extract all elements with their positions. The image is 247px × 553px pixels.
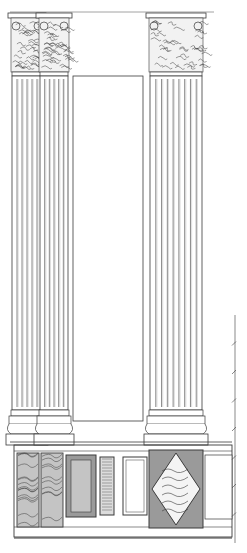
left-inner-column-base-scotia <box>35 424 72 434</box>
left-inner-column-base-torus <box>37 416 71 424</box>
marble-panel-3-inner <box>71 460 91 512</box>
architectural-drawing <box>0 0 247 553</box>
right-column-capital <box>149 18 203 72</box>
scale-tick <box>232 513 236 517</box>
right-column-base-fillet <box>149 410 203 416</box>
left-inner-column-abacus <box>36 13 72 18</box>
right-column-abacus <box>146 13 206 18</box>
marble-panel-7 <box>205 455 232 519</box>
scale-tick <box>232 484 236 488</box>
scale-tick <box>232 427 236 431</box>
right-column-base-scotia <box>145 424 206 434</box>
elevation-svg <box>0 0 247 553</box>
right-column-base-torus <box>147 416 205 424</box>
scale-tick <box>232 456 236 460</box>
left-inner-column-plinth <box>34 434 74 445</box>
left-inner-column-capital <box>39 18 69 72</box>
left-outer-column-astragal <box>12 72 42 76</box>
marble-panel-2 <box>41 453 63 527</box>
scale-tick <box>232 370 236 374</box>
right-column-shaft <box>150 76 202 410</box>
left-inner-column-base-fillet <box>39 410 69 416</box>
left-inner-column-acanthus-leaf <box>68 59 78 62</box>
right-column-plinth <box>144 434 208 445</box>
left-inner-column-astragal <box>40 72 68 76</box>
marble-panel-5-inner <box>126 460 144 512</box>
right-column-astragal <box>150 72 202 76</box>
left-outer-column-base-fillet <box>11 410 43 416</box>
scale-tick <box>232 342 236 346</box>
center-panel <box>73 76 143 421</box>
scale-tick <box>232 399 236 403</box>
